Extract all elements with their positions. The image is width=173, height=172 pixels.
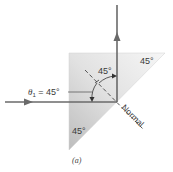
incident-angle-label: θ1 = 45° [28, 87, 60, 98]
angle-label-bottom-left: 45° [72, 126, 86, 136]
angle-label-reflected: 45° [98, 66, 112, 76]
prism-reflection-diagram: 45° 45° 45° θ1 = 45° Normal (a) [0, 0, 173, 172]
theta-value: = 45° [36, 87, 60, 97]
figure-caption: (a) [72, 156, 82, 165]
normal-label: Normal [120, 102, 147, 129]
arrow-right-icon [24, 99, 33, 106]
arrow-up-icon [114, 32, 121, 41]
angle-label-top-right: 45° [140, 56, 154, 66]
